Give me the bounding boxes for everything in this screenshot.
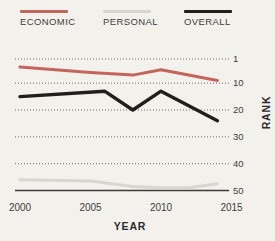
x-tick-label: 2015 [220,202,243,213]
series-line-economic [20,67,217,80]
line-chart-figure: ECONOMIC PERSONAL OVERALL 11020304050200… [0,0,275,241]
x-tick-label: 2000 [9,202,32,213]
y-tick-label: 40 [233,158,244,169]
y-tick-label: 50 [233,185,244,196]
chart-svg: 110203040502000200520102015 [0,0,275,241]
x-tick-label: 2010 [150,202,173,213]
y-tick-label: 1 [233,53,238,64]
series-line-overall [20,91,217,121]
y-axis-title: RANK [260,96,272,130]
x-tick-label: 2005 [79,202,102,213]
y-tick-label: 20 [233,104,244,115]
x-axis-title: YEAR [114,220,146,232]
y-tick-label: 10 [233,77,244,88]
y-tick-label: 30 [233,131,244,142]
series-line-personal [20,180,217,188]
y-axis-title-wrap: RANK [256,93,269,133]
x-axis-title-wrap: YEAR [114,216,146,234]
